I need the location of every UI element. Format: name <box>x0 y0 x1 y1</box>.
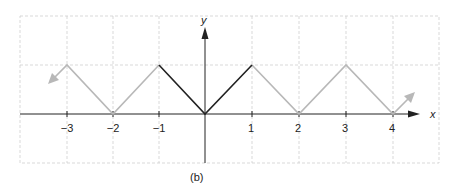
svg-text:−2: −2 <box>107 122 120 134</box>
svg-text:2: 2 <box>295 122 301 134</box>
x-tick-labels: −3 −2 −1 1 2 3 4 <box>61 122 395 134</box>
triangle-wave-plot: −3 −2 −1 1 2 3 4 x y <box>0 0 460 189</box>
svg-text:−3: −3 <box>61 122 74 134</box>
figure: −3 −2 −1 1 2 3 4 x y (b) <box>0 0 460 189</box>
x-axis-arrow-icon <box>408 111 420 118</box>
svg-text:4: 4 <box>389 122 395 134</box>
periodic-extension <box>53 65 410 114</box>
axes <box>20 36 412 163</box>
svg-text:−1: −1 <box>153 122 166 134</box>
svg-text:3: 3 <box>342 122 348 134</box>
figure-caption: (b) <box>190 171 203 183</box>
svg-text:1: 1 <box>248 122 254 134</box>
x-axis-label: x <box>429 108 436 120</box>
y-axis-arrow-icon <box>202 27 209 39</box>
